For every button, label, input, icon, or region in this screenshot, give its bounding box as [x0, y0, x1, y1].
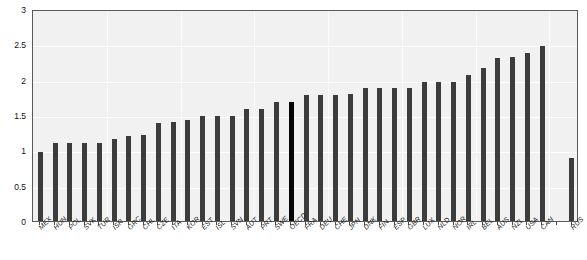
bar-swe [274, 102, 279, 221]
bar-chart-figure: 00.511.522.53 MEXHUNPOLSVKTURISRGRCCHLCZ… [0, 0, 587, 260]
bar-lux [422, 82, 427, 221]
bar-chl [141, 135, 146, 221]
bar-deu [318, 95, 323, 221]
y-axis-tick-label: 2.5 [14, 40, 26, 50]
y-axis-tick-label: 3 [21, 5, 26, 15]
bar-rus [569, 158, 574, 221]
bar-nld [436, 82, 441, 221]
bar-series [33, 11, 577, 221]
bar-usa [525, 53, 530, 221]
bar-fra [304, 95, 309, 221]
bar-prt [259, 109, 264, 221]
bar-nor [451, 82, 456, 221]
bar-isr [112, 139, 117, 221]
y-axis-tick-label: 1.5 [14, 111, 26, 121]
x-axis: MEXHUNPOLSVKTURISRGRCCHLCZEITAKORESTISLS… [32, 222, 578, 260]
x-axis-tick-mark [556, 222, 557, 225]
bar-svk [82, 143, 87, 221]
bar-oecd [289, 102, 294, 221]
bar-esp [392, 88, 397, 221]
bar-nzl [510, 57, 515, 221]
bar-tur [97, 143, 102, 221]
y-axis-tick-label: 0.5 [14, 182, 26, 192]
bar-isl [215, 116, 220, 221]
bar-ita [171, 122, 176, 221]
bar-mex [38, 152, 43, 221]
y-axis-tick-label: 0 [21, 217, 26, 227]
bar-che [333, 95, 338, 221]
bar-dnk [363, 88, 368, 221]
plot-area [32, 10, 578, 222]
bar-can [540, 46, 545, 221]
bar-grc [126, 136, 131, 221]
y-axis-tick-label: 2 [21, 76, 26, 86]
bar-gbr [407, 88, 412, 221]
chart-title [0, 0, 587, 2]
y-axis-tick-label: 1 [21, 146, 26, 156]
y-axis: 00.511.522.53 [0, 0, 32, 232]
bar-pol [67, 143, 72, 221]
bar-svn [230, 116, 235, 221]
bar-est [200, 116, 205, 221]
bar-jpn [348, 94, 353, 221]
bar-irl [466, 75, 471, 221]
bar-kor [185, 120, 190, 221]
bar-aut [244, 109, 249, 221]
bar-fin [377, 88, 382, 221]
bar-cze [156, 123, 161, 221]
bar-bel [481, 68, 486, 221]
bar-hun [53, 143, 58, 221]
bar-aus [495, 58, 500, 221]
